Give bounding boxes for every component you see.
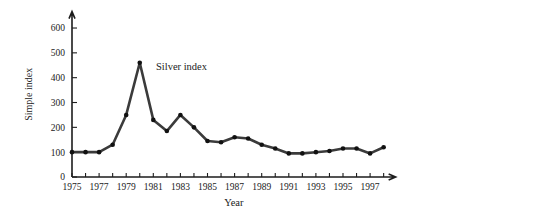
data-point xyxy=(205,139,210,144)
x-axis-line xyxy=(72,174,396,180)
y-axis-tick-labels: 0100200300400500600 xyxy=(51,23,66,182)
y-tick-label: 300 xyxy=(51,98,66,108)
x-axis-tick-labels: 1975197719791981198319851987198919911993… xyxy=(63,182,380,192)
x-tick-label: 1997 xyxy=(361,182,380,192)
x-tick-label: 1993 xyxy=(306,182,325,192)
data-point xyxy=(287,151,292,156)
x-tick-label: 1985 xyxy=(198,182,217,192)
data-point xyxy=(178,113,183,118)
data-point xyxy=(83,150,88,155)
series-line-silver-index xyxy=(72,63,384,154)
data-point xyxy=(165,129,170,134)
x-tick-label: 1989 xyxy=(252,182,271,192)
data-point xyxy=(300,151,305,156)
x-tick-label: 1975 xyxy=(63,182,82,192)
x-tick-label: 1995 xyxy=(334,182,353,192)
chart-canvas: 0100200300400500600 19751977197919811983… xyxy=(0,0,551,223)
data-point xyxy=(110,142,115,147)
x-tick-label: 1983 xyxy=(171,182,190,192)
y-tick-label: 0 xyxy=(60,172,65,182)
x-tick-label: 1979 xyxy=(117,182,136,192)
data-point xyxy=(381,145,386,150)
data-point xyxy=(341,146,346,151)
data-point xyxy=(192,125,197,130)
silver-index-chart: 0100200300400500600 19751977197919811983… xyxy=(0,0,551,223)
x-tick-label: 1987 xyxy=(225,182,244,192)
data-series xyxy=(70,60,386,155)
x-axis-title: Year xyxy=(224,197,244,208)
y-tick-label: 100 xyxy=(51,148,66,158)
data-point xyxy=(219,140,224,145)
y-tick-label: 400 xyxy=(51,73,66,83)
data-point xyxy=(314,150,319,155)
y-tick-label: 500 xyxy=(51,48,66,58)
data-point xyxy=(137,60,142,65)
x-tick-label: 1991 xyxy=(279,182,298,192)
axes xyxy=(69,12,396,180)
data-point xyxy=(246,136,251,141)
y-tick-label: 600 xyxy=(51,23,66,33)
series-annotation-label: Silver index xyxy=(156,61,208,72)
data-point xyxy=(151,118,156,123)
series-markers xyxy=(70,60,386,155)
x-tick-label: 1981 xyxy=(144,182,163,192)
data-point xyxy=(124,113,129,118)
data-point xyxy=(368,151,373,156)
data-point xyxy=(232,135,237,140)
data-point xyxy=(97,150,102,155)
y-tick-label: 200 xyxy=(51,123,66,133)
data-point xyxy=(354,146,359,151)
data-point xyxy=(70,150,75,155)
y-axis-title: Simple index xyxy=(23,68,34,121)
data-point xyxy=(273,146,278,151)
data-point xyxy=(327,149,332,154)
x-tick-label: 1977 xyxy=(90,182,109,192)
data-point xyxy=(259,142,264,147)
